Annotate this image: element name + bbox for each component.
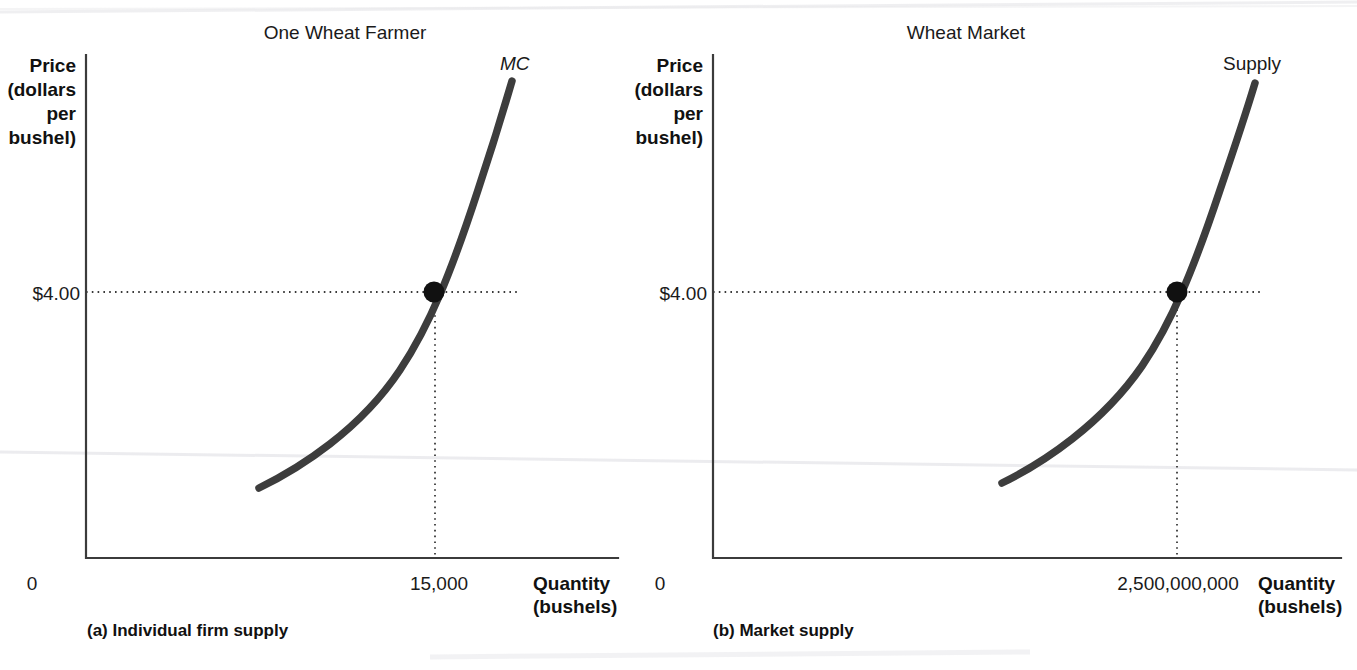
quantity-tick-label-market: 2,500,000,000: [1117, 573, 1239, 594]
y-axis-label-line-3: per: [46, 103, 76, 124]
supply-curve: [1002, 83, 1255, 483]
x-axis-label-line-2: (bushels): [1258, 596, 1342, 617]
x-axis-label-market: Quantity (bushels): [1258, 573, 1342, 617]
equilibrium-point-individual-firm: [424, 282, 445, 303]
y-axis-label-line-4: bushel): [8, 127, 76, 148]
x-axis-label-line-1: Quantity: [1258, 573, 1335, 594]
x-axis-label-line-1: Quantity: [533, 573, 610, 594]
figure-container: One Wheat Farmer Price (dollars per bush…: [0, 0, 1357, 670]
panel-caption-individual-firm: (a) Individual firm supply: [87, 621, 289, 640]
price-tick-label-individual-firm: $4.00: [32, 283, 80, 304]
y-axis-label-line-4: bushel): [635, 127, 703, 148]
supply-curve-label: Supply: [1223, 53, 1282, 74]
y-axis-label-line-3: per: [673, 103, 703, 124]
panel-individual-firm: One Wheat Farmer Price (dollars per bush…: [7, 22, 618, 640]
y-axis-label-line-1: Price: [30, 55, 76, 76]
y-axis-label-line-1: Price: [657, 55, 703, 76]
x-axis-label-line-2: (bushels): [533, 596, 617, 617]
axes-individual-firm: [86, 55, 618, 558]
panel-market: Wheat Market Price (dollars per bushel) …: [634, 22, 1342, 640]
mc-curve: [259, 81, 512, 488]
axes-market: [713, 55, 1341, 558]
y-axis-label-market: Price (dollars per bushel): [634, 55, 703, 148]
scan-artifact-middle: [0, 452, 1357, 470]
y-axis-label-individual-firm: Price (dollars per bushel): [7, 55, 76, 148]
y-axis-label-line-2: (dollars: [7, 79, 76, 100]
origin-label-individual-firm: 0: [27, 573, 38, 594]
price-tick-label-market: $4.00: [659, 283, 707, 304]
origin-label-market: 0: [655, 573, 666, 594]
mc-curve-label: MC: [500, 53, 530, 74]
quantity-tick-label-individual-firm: 15,000: [410, 573, 468, 594]
x-axis-label-individual-firm: Quantity (bushels): [533, 573, 617, 617]
y-axis-label-line-2: (dollars: [634, 79, 703, 100]
equilibrium-point-market: [1167, 282, 1188, 303]
panel-caption-market: (b) Market supply: [713, 621, 854, 640]
scan-artifact-bottom: [430, 652, 1030, 657]
wheat-supply-figure: One Wheat Farmer Price (dollars per bush…: [0, 0, 1357, 670]
panel-title-market: Wheat Market: [907, 22, 1026, 43]
panel-title-individual-firm: One Wheat Farmer: [264, 22, 427, 43]
